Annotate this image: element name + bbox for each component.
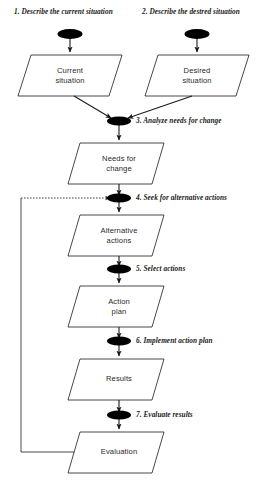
connector-ellipse-3: [107, 116, 131, 125]
step-label-6: 6. Implement action plan: [136, 336, 213, 345]
flowchart-page: 1. Describe the current situation 2. Des…: [0, 0, 260, 491]
connector-ellipse-7: [107, 410, 131, 419]
flowchart-canvas: [0, 0, 260, 491]
node-label-needs-for-change: Needs for change: [102, 154, 136, 173]
connector-ellipse-5: [107, 264, 131, 273]
node-label-desired-situation: Desired situation: [182, 66, 211, 85]
node-label-alternative-actions: Alternative actions: [101, 226, 138, 245]
node-label-results: Results: [106, 374, 132, 384]
node-label-action-plan: Action plan: [108, 297, 130, 316]
node-label-current-situation: Current situation: [55, 66, 84, 85]
step-label-3: 3. Analyze needs for change: [136, 116, 222, 125]
step-label-1: 1. Describe the current situation: [14, 7, 113, 16]
connector-ellipse-6: [107, 336, 131, 345]
step-label-4: 4. Seek for alternative actions: [136, 193, 227, 202]
connector-ellipse-4: [107, 193, 131, 202]
connector-ellipse-2: [185, 29, 210, 39]
connector-ellipse-1: [58, 29, 83, 39]
step-label-5: 5. Select actions: [136, 264, 185, 273]
edge-current-to-ellipse3: [74, 96, 111, 118]
edge-desired-to-ellipse3: [128, 96, 192, 118]
step-label-7: 7. Evaluate results: [136, 410, 193, 419]
step-label-2: 2. Describe the destred situation: [142, 7, 240, 16]
node-label-evaluation: Evaluation: [101, 447, 137, 457]
